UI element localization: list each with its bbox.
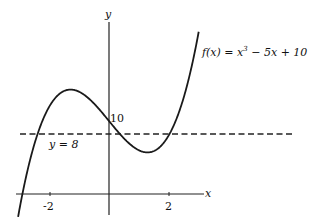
x-tick-label-2: 2 [165,200,172,213]
x-axis-label: x [205,187,212,200]
x-tick-label-neg2: -2 [43,200,54,213]
hline-label: y = 8 [48,138,78,151]
y-axis-label: y [104,8,112,21]
cubic-function-chart: y x -2 2 10 y = 8 f(x) = x3 − 5x + 10 [0,0,318,222]
function-label: f(x) = x3 − 5x + 10 [201,45,307,59]
function-label-suffix: − 5x + 10 [248,46,308,59]
function-label-prefix: f(x) = x [201,46,244,59]
y-tick-label-10: 10 [110,112,124,125]
